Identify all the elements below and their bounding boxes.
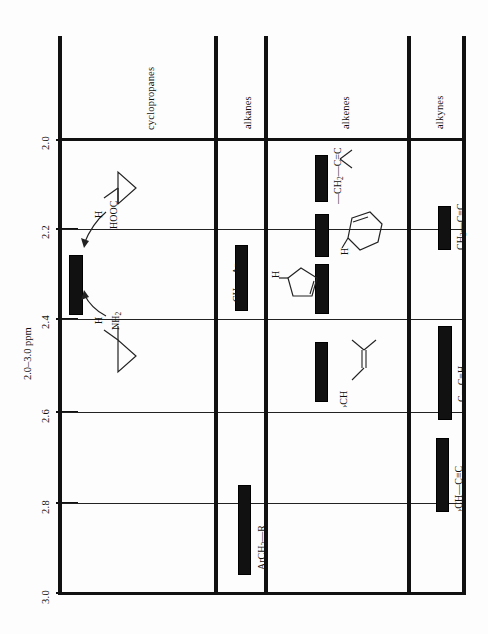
range-bar-cyclopropane-ch [69, 255, 83, 315]
label-ch3-ar-a: CH [231, 288, 242, 302]
axis-line-3-0 [58, 592, 466, 595]
structure-vinyl-terminus [336, 148, 356, 170]
tick-label-2-6: 2.6 [40, 409, 51, 423]
label-propargylic-ch2: CH2—C≡C [455, 203, 468, 250]
tick-label-2-2: 2.2 [40, 225, 51, 239]
structure-amino-cyclopropane [84, 290, 150, 385]
label-ch3-ar-sub: 3 [235, 284, 244, 288]
column-separator-left [58, 36, 62, 594]
label-hooc: HOOC [108, 201, 119, 229]
column-separator-alkanes-alkenes [264, 36, 268, 594]
label-ch3-ar-b: —Ar [231, 264, 242, 285]
structure-cyclopentene [279, 262, 325, 312]
column-separator-alkenes-alkynes [407, 36, 411, 594]
label-allylic-ch-a: ›CH [338, 391, 349, 408]
label-ch3-ar: CH3—Ar [231, 264, 244, 302]
column-header-cyclopropanes: cyclopropanes [145, 67, 156, 130]
label-nh2-subscript: 2 [114, 312, 123, 316]
label-nh2-text: NH [110, 316, 121, 330]
tick-label-3-0: 3.0 [40, 590, 51, 604]
gridline-2-6 [60, 412, 464, 414]
label-propargylic-ch: ›CH—C≡C [453, 466, 464, 512]
label-arch2-r-b: —R [256, 525, 267, 542]
range-bar-terminal-alkyne-ch [438, 326, 452, 420]
label-terminal-alkyne-ch: —C—C≡H [456, 366, 467, 412]
label-allylic-ch2-sub: 2 [336, 176, 345, 180]
range-bar-allylic-ch [315, 342, 328, 402]
axis-title: 2.0–3.0 ppm [22, 327, 33, 380]
nmr-shift-chart: 2.0–3.0 ppm 2.0 2.2 2.4 2.6 2.8 3.0 cycl… [0, 0, 488, 634]
gridline-2-8 [60, 503, 464, 505]
column-header-alkanes: alkanes [242, 96, 253, 129]
label-cyclohexene-h: H [339, 248, 350, 255]
tick-label-2-8: 2.8 [40, 500, 51, 514]
range-bar-cyclohexene-allylic [315, 214, 329, 257]
column-separator-cyclopropanes-alkanes [214, 36, 218, 594]
label-arch2-r: ArCH2—R [256, 525, 269, 570]
label-propargylic-ch2-sub: 2 [459, 232, 468, 236]
label-propargylic-ch2-a: CH [455, 236, 466, 250]
structure-allylic-ch-fragment [344, 338, 380, 388]
label-arch2-r-a: ArCH [256, 546, 267, 570]
tick-label-2-0: 2.0 [40, 136, 51, 150]
column-header-alkynes: alkynes [434, 96, 445, 129]
label-nh2: NH2 [110, 312, 123, 330]
label-arch2-r-sub: 2 [260, 542, 269, 546]
range-bar-propargylic-ch2 [438, 206, 451, 250]
label-allylic-ch: ›CH [338, 391, 349, 408]
range-bar-allylic-ch2 [315, 155, 328, 202]
tick-label-2-4: 2.4 [40, 315, 51, 329]
label-cyclopropane-h-top: H [93, 211, 104, 218]
label-cyclopropane-h-bottom: H [93, 317, 104, 324]
range-bar-propargylic-ch [436, 438, 449, 512]
axis-line-2-0 [58, 138, 466, 141]
column-header-alkenes: alkenes [340, 96, 351, 129]
label-allylic-ch2-a: —CH [332, 180, 343, 204]
range-bar-arch2-r [238, 485, 251, 575]
label-propargylic-ch2-b: —C≡C [455, 203, 466, 232]
label-cyclopentene-h: H [270, 271, 281, 278]
